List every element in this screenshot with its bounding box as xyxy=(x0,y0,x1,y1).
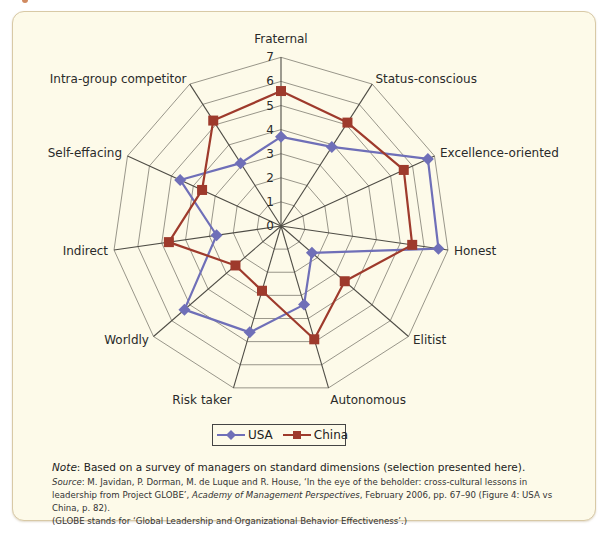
svg-text:Autonomous: Autonomous xyxy=(330,393,406,407)
svg-text:4: 4 xyxy=(266,123,274,137)
legend-label-china: China xyxy=(314,428,348,442)
svg-text:Fraternal: Fraternal xyxy=(254,32,307,46)
square-marker-icon xyxy=(283,429,311,441)
figure-notes: Note: Based on a survey of managers on s… xyxy=(52,460,572,528)
svg-text:7: 7 xyxy=(266,50,274,64)
svg-text:3: 3 xyxy=(266,147,274,161)
diamond-marker-icon xyxy=(217,429,245,441)
chart-legend: USA China xyxy=(212,424,346,446)
radar-grid xyxy=(114,57,448,388)
note-text: : Based on a survey of managers on stand… xyxy=(77,461,525,473)
svg-text:1: 1 xyxy=(266,195,274,209)
svg-text:0: 0 xyxy=(266,219,274,233)
svg-text:Self-effacing: Self-effacing xyxy=(48,146,122,160)
svg-text:Honest: Honest xyxy=(454,244,497,258)
radar-chart: 01234567 FraternalStatus-consciousExcell… xyxy=(0,0,606,535)
svg-text:Indirect: Indirect xyxy=(63,244,109,258)
note-line: Note: Based on a survey of managers on s… xyxy=(52,460,572,474)
legend-item-china: China xyxy=(283,428,354,442)
svg-text:Risk taker: Risk taker xyxy=(172,393,232,407)
source-label: Source xyxy=(52,477,82,487)
svg-text:Excellence-oriented: Excellence-oriented xyxy=(440,146,559,160)
svg-text:2: 2 xyxy=(266,171,274,185)
svg-text:Intra-group competitor: Intra-group competitor xyxy=(50,72,187,86)
source-citation: Source: M. Javidan, P. Dorman, M. de Luq… xyxy=(52,476,572,528)
svg-text:Elitist: Elitist xyxy=(413,333,447,347)
svg-text:6: 6 xyxy=(266,74,274,88)
source-text-3: (GLOBE stands for ‘Global Leadership and… xyxy=(52,516,407,526)
legend-label-usa: USA xyxy=(248,428,273,442)
note-label: Note xyxy=(52,461,77,473)
svg-text:Status-conscious: Status-conscious xyxy=(375,72,477,86)
svg-text:Worldly: Worldly xyxy=(104,333,149,347)
legend-item-usa: USA xyxy=(217,428,279,442)
source-journal: Academy of Management Perspectives xyxy=(192,490,360,500)
svg-text:5: 5 xyxy=(266,99,274,113)
